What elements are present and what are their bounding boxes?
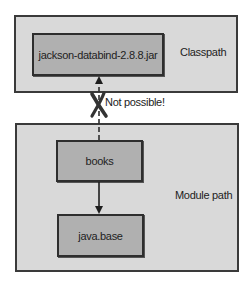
arrowhead-down-icon bbox=[95, 206, 103, 214]
edges-layer bbox=[0, 0, 249, 284]
solid-dependency-arrow bbox=[95, 182, 103, 214]
arrowhead-up-icon bbox=[95, 76, 103, 84]
not-possible-annotation: Not possible! bbox=[105, 96, 165, 108]
